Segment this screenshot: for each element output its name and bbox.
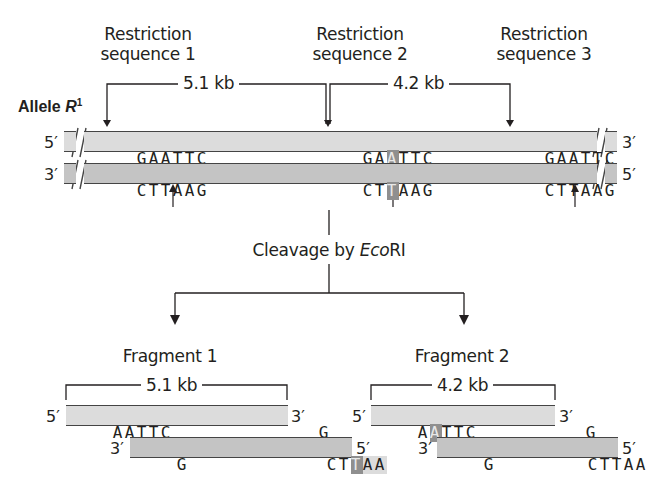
arrow-down-site2-icon [324,120,332,127]
distance-label-1: 5.1 kb [178,74,239,92]
site3-bottom-seq: CTTAAG [498,164,617,218]
fragment1-bottom-left-end: 3′ [110,439,124,459]
fragment2-bottom-left-end: 3′ [418,439,432,459]
arrow-down-site1-icon [103,120,111,127]
fragment2-top-right-end: 3′ [559,407,573,427]
fragment2-bottom-right-end: 5′ [622,439,636,459]
fragment2-length: 4.2 kb [432,376,493,394]
arrow-down-fragment1-icon [170,315,180,325]
top-strand-left-end: 5′ [44,133,58,153]
arrow-down-fragment2-icon [459,315,469,325]
process-connector [175,210,464,318]
distance-label-2: 4.2 kb [388,74,449,92]
fragment1-top-right-end: 3′ [291,407,305,427]
bottom-strand-stub-left [64,163,76,184]
bottom-strand-stub-right [605,163,617,184]
cleavage-label: Cleavage by EcoRI [200,240,458,260]
fragment2-title: Fragment 2 [392,346,532,366]
bottom-strand-left-end: 3′ [44,165,58,185]
fragment1-length: 5.1 kb [141,376,202,394]
bottom-strand-right-end: 5′ [622,165,636,185]
fragment1-bottom-right-end: 5′ [356,439,370,459]
fragment1-title: Fragment 1 [100,346,240,366]
fragment1-top-strand: AATTC G [66,405,288,426]
top-strand-stub-right [605,131,617,152]
site2-bottom-seq: CTTAAG [316,164,435,218]
top-strand-right-end: 3′ [622,133,636,153]
bottom-strand: CTTAAG CTTAAG CTTAAG [84,163,597,184]
site1-bottom-seq: CTTAAG [90,164,209,218]
fragment1-top-left-end: 5′ [46,407,60,427]
allele-label: Allele R1 [18,97,82,116]
fragment2-top-left-end: 5′ [352,407,366,427]
top-strand: GAATTC GAATTC GAATTC [84,131,597,152]
fragment2-bottom-strand: G CTTAA [437,437,618,458]
fragment1-bottom-strand: G CTTAA [130,437,352,458]
arrow-down-site3-icon [506,120,514,127]
mutation-highlight-bottom: T [387,182,399,200]
fragment2-top-strand: AATTC G [371,405,555,426]
top-strand-stub-left [64,131,76,152]
